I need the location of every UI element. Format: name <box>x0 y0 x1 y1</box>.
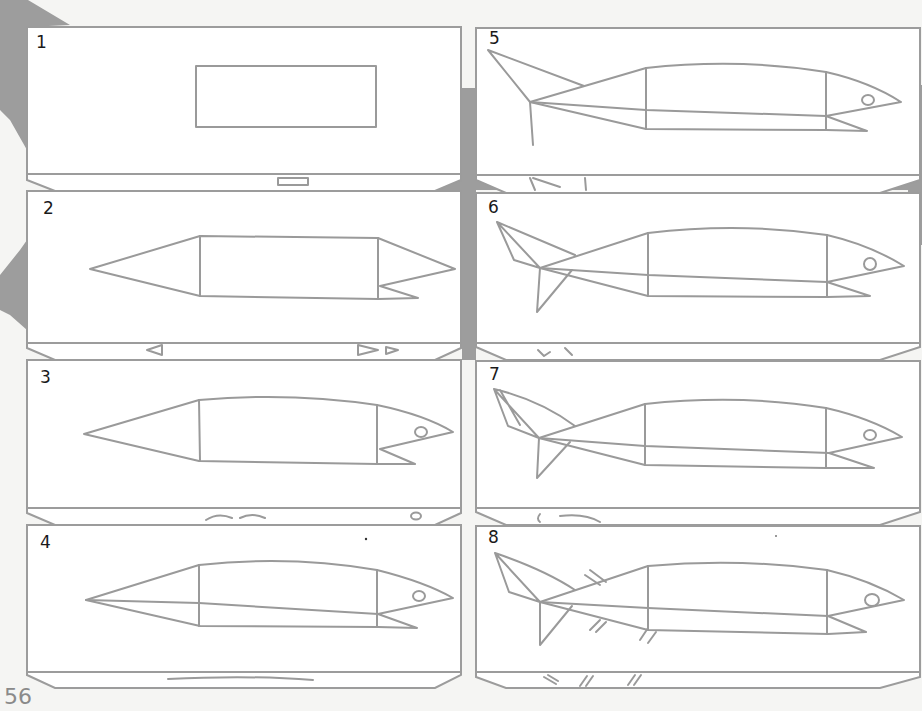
panel-step-3: 3 <box>27 360 461 525</box>
step-number: 7 <box>489 364 500 384</box>
step-number: 3 <box>40 367 51 387</box>
panel-step-8: 8 <box>476 526 920 688</box>
drawing-canvas: 1 2 3 4 56 <box>0 0 922 711</box>
step-number: 5 <box>489 28 500 48</box>
panel-step-4: 4 56 <box>4 525 461 709</box>
panel-step-1: 1 <box>27 27 461 191</box>
step-number: 6 <box>488 197 499 217</box>
panel-step-2: 2 <box>27 191 461 360</box>
panel-step-5: 5 <box>476 28 920 193</box>
step-number: 1 <box>36 32 47 52</box>
panel-step-7: 7 <box>476 361 920 525</box>
step-number: 4 <box>40 532 51 552</box>
page-number: 56 <box>4 684 32 709</box>
panel-step-6: 6 <box>476 193 920 360</box>
step-number: 2 <box>43 198 54 218</box>
book-page: 1 2 3 4 56 <box>0 0 922 711</box>
step-number: 8 <box>488 527 499 547</box>
